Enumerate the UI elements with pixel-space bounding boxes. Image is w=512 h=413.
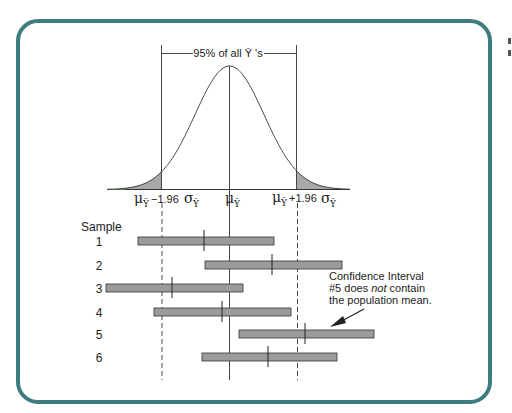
annotation: Confidence Interval #5 does not contain …: [329, 270, 432, 306]
minus-1-96-text: −1.96: [151, 193, 179, 205]
mu-symbol: μ: [134, 190, 143, 206]
ybar-subscript: Ȳ: [329, 198, 337, 209]
sample-number: 5: [96, 328, 103, 342]
ybar-subscript: Ȳ: [233, 198, 241, 209]
label-upper-critical: μ Ȳ +1.96 σ Ȳ: [272, 189, 337, 209]
annotation-emphasis: not: [371, 282, 387, 294]
interval-bar: [239, 330, 374, 338]
label-population-mean: μ Ȳ: [225, 190, 241, 209]
interval-bar: [106, 284, 243, 292]
sample-heading: Sample: [81, 220, 122, 234]
annotation-line-2: #5 does not contain: [329, 282, 425, 294]
sample-number: 2: [96, 259, 103, 273]
plus-1-96-text: +1.96: [289, 192, 317, 204]
label-lower-critical: μ Ȳ −1.96 σ Ȳ: [134, 190, 200, 209]
annotation-text: contain: [387, 282, 426, 294]
ybar-subscript: Ȳ: [142, 198, 150, 209]
mu-symbol: μ: [225, 190, 234, 206]
ybar-subscript: Ȳ: [280, 197, 288, 208]
sample-number: 3: [96, 282, 103, 296]
interval-bar: [138, 237, 274, 245]
interval-row-3: 3: [96, 277, 243, 298]
mu-symbol: μ: [272, 189, 281, 205]
interval-row-2: 2: [96, 254, 342, 275]
interval-bar: [202, 353, 337, 361]
sample-number: 4: [96, 306, 103, 320]
annotation-line-3: the population mean.: [329, 294, 432, 306]
interval-row-6: 6: [96, 346, 337, 367]
interval-row-4: 4: [96, 301, 291, 322]
ybar-subscript: Ȳ: [192, 198, 200, 209]
sample-number: 1: [96, 235, 103, 249]
annotation-text: #5 does: [329, 282, 371, 294]
arrow-icon: [330, 309, 364, 327]
annotation-line-1: Confidence Interval: [329, 270, 424, 282]
figure-stage: 95% of all Ȳ 's μ Ȳ −1.96 σ Ȳ μ Ȳ μ Ȳ +1…: [0, 0, 512, 413]
interval-bar: [205, 261, 342, 269]
interval-row-1: 1: [96, 230, 274, 251]
bracket-label: 95% of all Ȳ 's: [193, 47, 263, 59]
sample-number: 6: [96, 351, 103, 365]
normal-curve: [107, 66, 350, 189]
confidence-interval-diagram: 95% of all Ȳ 's μ Ȳ −1.96 σ Ȳ μ Ȳ μ Ȳ +1…: [0, 0, 512, 413]
